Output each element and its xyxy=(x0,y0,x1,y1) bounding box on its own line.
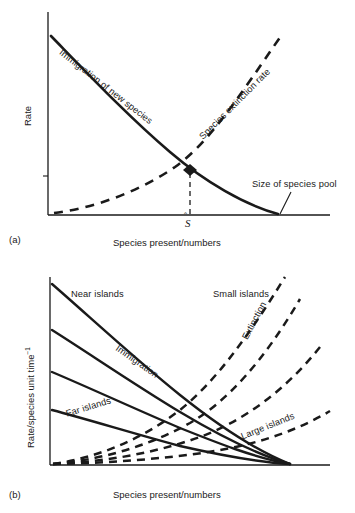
panel-b-y-axis-title-superscript: −1 xyxy=(24,347,31,354)
equilibrium-tick-letter: S xyxy=(185,217,191,229)
figure-root: Rate Immigration of new species Species … xyxy=(0,0,355,513)
panel-a: Rate Immigration of new species Species … xyxy=(0,0,355,256)
panel-a-y-axis-title: Rate xyxy=(22,106,33,126)
panel-b-x-axis-title: Species present/numbers xyxy=(113,489,221,500)
equilibrium-tick-label: S ̂ xyxy=(185,217,191,229)
panel-b-axes xyxy=(50,277,330,465)
panel-b: Rate/species unit time−1 Near islands Fa… xyxy=(0,255,355,513)
label-near-islands: Near islands xyxy=(71,290,124,299)
panel-a-plot xyxy=(0,0,355,256)
panel-a-tag: (a) xyxy=(9,234,21,245)
label-species-pool: Size of species pool xyxy=(252,180,337,189)
panel-a-x-axis-title: Species present/numbers xyxy=(113,237,221,248)
extinction-curve-a xyxy=(54,33,283,213)
species-pool-leader-line xyxy=(280,192,291,214)
label-small-islands: Small islands xyxy=(213,290,269,299)
panel-b-y-axis-title: Rate/species unit time−1 xyxy=(24,347,36,448)
panel-b-tag: (b) xyxy=(9,489,21,500)
extinction-curves-b xyxy=(53,277,330,464)
panel-b-plot xyxy=(0,255,355,513)
immigration-curve-a xyxy=(51,36,278,214)
panel-b-y-axis-title-main: Rate/species unit time xyxy=(25,355,36,448)
